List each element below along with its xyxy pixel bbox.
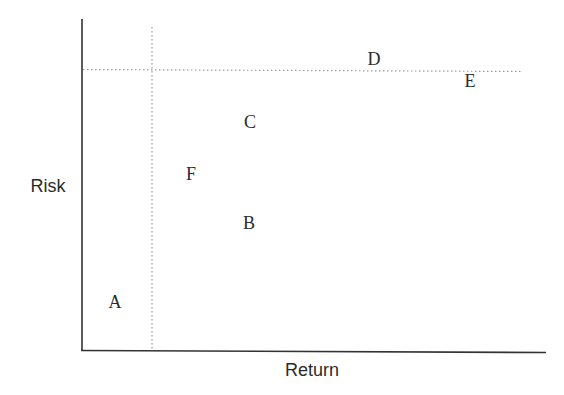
- risk-return-diagram: Risk Return A B C D E F: [0, 0, 564, 395]
- point-label-d: D: [368, 50, 381, 68]
- point-label-e: E: [465, 72, 476, 90]
- point-label-f: F: [186, 165, 196, 183]
- point-label-c: C: [244, 113, 256, 131]
- point-label-a: A: [109, 293, 122, 311]
- x-axis-label: Return: [285, 361, 339, 379]
- plot-area: [0, 0, 564, 395]
- point-label-b: B: [243, 214, 255, 232]
- x-axis-line: [81, 351, 546, 353]
- horizontal-reference-line: [83, 70, 522, 72]
- y-axis-label: Risk: [31, 177, 66, 195]
